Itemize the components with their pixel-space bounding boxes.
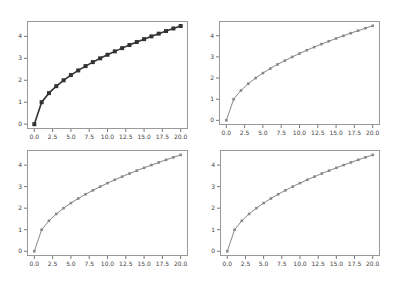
x-tick-label: 7.5: [84, 260, 94, 267]
data-marker: [47, 91, 51, 95]
y-tick-label: 4: [18, 32, 22, 39]
x-tick-label: 12.5: [119, 260, 133, 267]
data-marker: [128, 172, 131, 175]
subplot-bottom-right: 012340.02.55.07.510.012.515.017.520.0: [202, 148, 382, 272]
y-tick-label: 2: [211, 204, 215, 211]
data-marker: [106, 53, 110, 57]
x-tick-label: 0.0: [222, 260, 232, 267]
x-tick-label: 0.0: [30, 133, 40, 140]
data-marker: [179, 24, 183, 28]
y-tick-label: 0: [18, 247, 22, 254]
y-tick-label: 4: [18, 161, 22, 168]
data-marker: [142, 37, 146, 41]
subplot-bottom-left: 012340.02.55.07.510.012.515.017.520.0: [9, 148, 190, 272]
data-marker: [306, 178, 309, 181]
data-marker: [291, 56, 294, 59]
x-tick-label: 15.0: [137, 133, 151, 140]
data-marker: [342, 34, 345, 37]
data-marker: [62, 207, 65, 210]
data-marker: [276, 63, 279, 66]
data-marker: [40, 100, 44, 104]
data-marker: [284, 189, 287, 192]
data-marker: [76, 68, 80, 72]
plot-svg: 012340.02.55.07.510.012.515.017.520.0: [201, 19, 382, 141]
y-tick-label: 1: [211, 226, 215, 233]
data-marker: [335, 167, 338, 170]
x-tick-label: 2.5: [240, 129, 250, 136]
x-tick-label: 7.5: [277, 260, 287, 267]
x-tick-label: 20.0: [174, 260, 188, 267]
data-marker: [328, 169, 331, 172]
x-tick-label: 20.0: [366, 129, 380, 136]
data-line: [34, 155, 180, 251]
plot-frame: [221, 151, 380, 256]
data-marker: [335, 37, 338, 40]
x-tick-label: 17.5: [348, 129, 362, 136]
data-marker: [364, 156, 367, 159]
x-tick-label: 15.0: [137, 260, 151, 267]
x-tick-label: 15.0: [329, 129, 343, 136]
data-marker: [113, 49, 117, 53]
data-marker: [69, 73, 73, 77]
data-marker: [350, 161, 353, 164]
y-tick-label: 0: [210, 116, 214, 123]
y-tick-label: 1: [210, 95, 214, 102]
data-marker: [284, 59, 287, 62]
x-tick-label: 17.5: [348, 260, 362, 267]
data-marker: [164, 29, 168, 33]
data-marker: [357, 29, 360, 32]
data-marker: [172, 156, 175, 159]
data-marker: [321, 172, 324, 175]
data-marker: [240, 89, 243, 92]
data-line: [226, 26, 372, 121]
data-marker: [84, 64, 88, 68]
x-tick-label: 20.0: [174, 133, 188, 140]
plot-frame: [28, 22, 188, 129]
y-tick-label: 0: [18, 120, 22, 127]
x-tick-label: 5.0: [66, 133, 76, 140]
data-marker: [225, 119, 228, 122]
x-tick-label: 2.5: [48, 260, 58, 267]
data-marker: [241, 219, 244, 222]
data-marker: [135, 169, 138, 172]
data-marker: [299, 182, 302, 185]
y-tick-label: 4: [210, 32, 214, 39]
data-marker: [121, 175, 124, 178]
data-marker: [357, 159, 360, 162]
data-marker: [233, 228, 236, 231]
data-marker: [114, 178, 117, 181]
x-tick-label: 0.0: [30, 260, 40, 267]
x-tick-label: 7.5: [84, 133, 94, 140]
data-marker: [255, 207, 258, 210]
data-marker: [306, 49, 309, 52]
data-marker: [232, 98, 235, 101]
data-marker: [157, 32, 161, 36]
data-marker: [143, 167, 146, 170]
plot-svg: 012340.02.55.07.510.012.515.017.520.0: [9, 148, 190, 272]
data-marker: [254, 77, 257, 80]
data-line: [34, 26, 180, 124]
y-tick-label: 1: [18, 98, 22, 105]
data-marker: [262, 72, 265, 75]
data-marker: [32, 122, 36, 126]
y-tick-label: 4: [211, 161, 215, 168]
data-marker: [313, 46, 316, 49]
data-marker: [40, 228, 43, 231]
data-marker: [248, 213, 251, 216]
data-marker: [371, 25, 374, 28]
x-tick-label: 20.0: [366, 260, 380, 267]
data-marker: [226, 250, 229, 253]
plot-svg: 012340.02.55.07.510.012.515.017.520.0: [202, 148, 382, 272]
data-marker: [91, 60, 95, 64]
data-marker: [55, 213, 58, 216]
data-marker: [179, 154, 182, 157]
data-marker: [92, 189, 95, 192]
data-marker: [364, 27, 367, 30]
data-marker: [342, 164, 345, 167]
x-tick-label: 10.0: [101, 260, 115, 267]
y-tick-label: 3: [210, 53, 214, 60]
x-tick-label: 10.0: [293, 129, 307, 136]
data-marker: [320, 43, 323, 46]
y-tick-label: 0: [211, 247, 215, 254]
y-tick-label: 2: [18, 76, 22, 83]
